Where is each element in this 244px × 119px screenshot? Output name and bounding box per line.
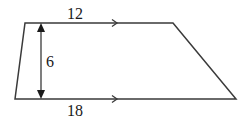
top-base-label: 12: [67, 5, 83, 22]
height-arrow-bottom-icon: [37, 90, 45, 99]
height-arrow-top-icon: [37, 23, 45, 32]
trapezoid-diagram: 12 18 6: [0, 0, 244, 119]
height-label: 6: [46, 53, 54, 70]
bottom-base-label: 18: [67, 102, 83, 119]
